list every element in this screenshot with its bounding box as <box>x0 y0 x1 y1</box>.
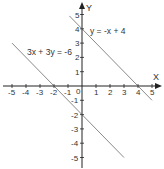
y-axis-label: Y <box>86 3 92 13</box>
x-tick-label: 1 <box>94 88 99 97</box>
origin-label: 0 <box>76 87 81 96</box>
x-tick-label: -3 <box>36 88 44 97</box>
coordinate-plane: -5-4-3-2-112345 -5-4-3-2-112345 X Y 0 y … <box>0 0 164 169</box>
x-tick-label: -2 <box>50 88 58 97</box>
x-axis-arrow-icon <box>155 83 162 89</box>
y-axis-arrow-icon <box>79 2 85 9</box>
x-tick-label: -4 <box>22 88 30 97</box>
x-tick-label: 4 <box>136 88 141 97</box>
line-series-2 <box>12 43 124 157</box>
equation-label-2: 3x + 3y = -6 <box>27 47 72 57</box>
x-tick-label: 3 <box>122 88 127 97</box>
y-tick-label: -3 <box>71 125 79 134</box>
x-tick-label: 5 <box>150 88 155 97</box>
y-tick-label: -4 <box>71 139 79 148</box>
y-tick-label: 5 <box>75 11 80 20</box>
y-tick-label: 1 <box>75 68 80 77</box>
x-tick-label: 2 <box>108 88 113 97</box>
x-axis-label: X <box>153 72 159 82</box>
y-tick-label: 3 <box>75 39 80 48</box>
x-tick-label: -5 <box>8 88 16 97</box>
equation-label-1: y = -x + 4 <box>90 26 126 36</box>
y-tick-label: 2 <box>75 53 80 62</box>
y-tick-label: -5 <box>71 154 79 163</box>
y-tick-label: -2 <box>71 111 79 120</box>
